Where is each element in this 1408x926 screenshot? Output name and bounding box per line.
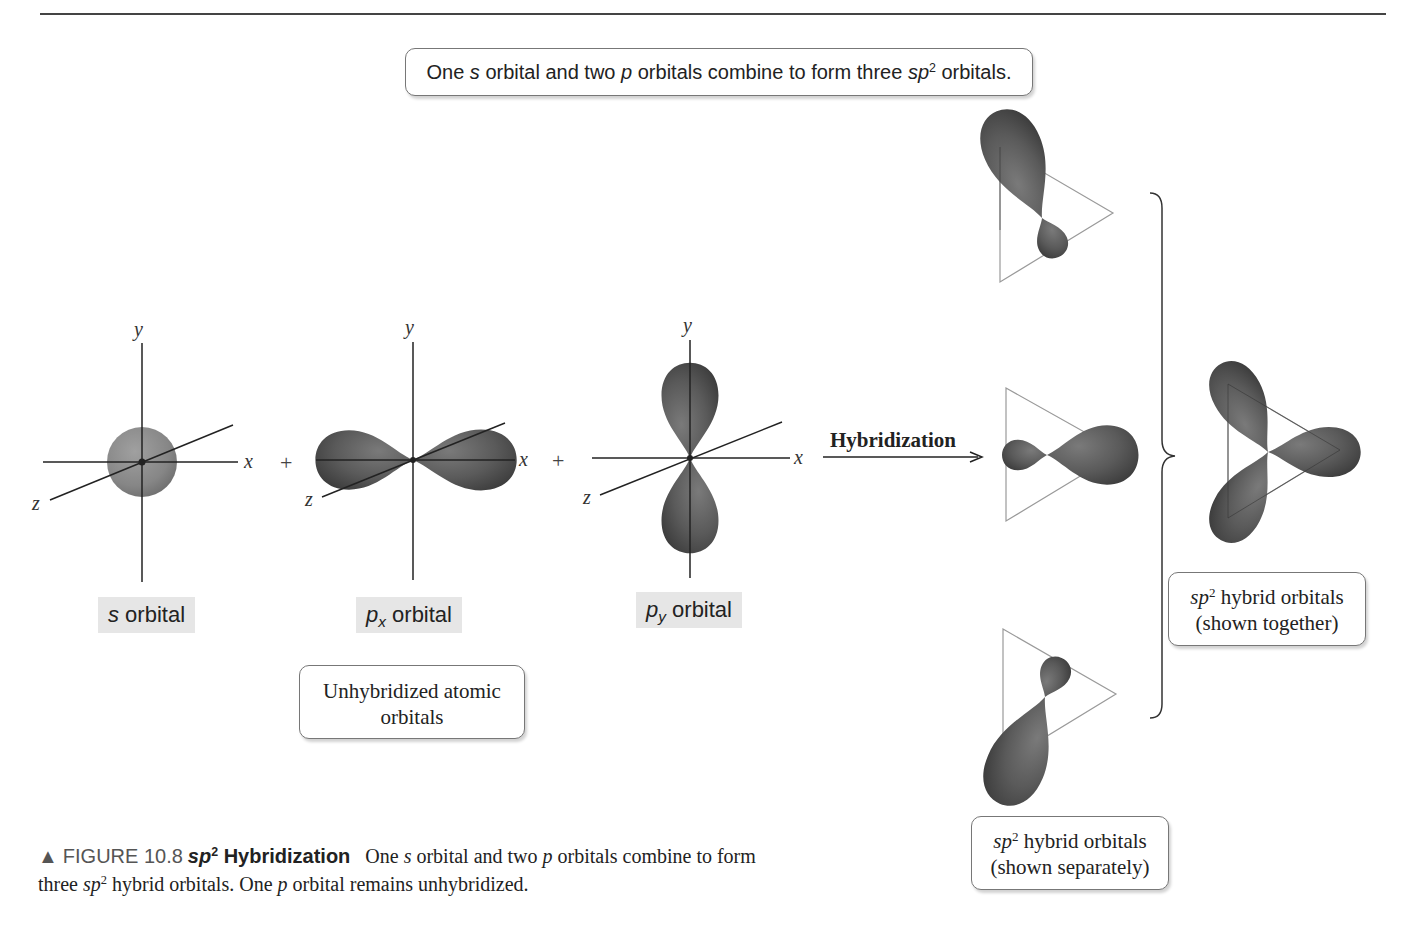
hybridization-arrow — [823, 452, 982, 462]
text: p — [278, 873, 288, 895]
line: sp2 hybrid orbitals — [972, 828, 1168, 854]
y-axis-label: y — [681, 314, 692, 337]
s-orbital-figure: x y z — [31, 318, 253, 582]
nucleus-dot — [410, 457, 416, 463]
px-orbital-figure: x y z — [304, 316, 528, 580]
figure-number: FIGURE 10.8 — [63, 845, 183, 867]
py-orbital-figure: x y z — [582, 314, 803, 578]
y-axis-label: y — [132, 318, 143, 341]
text: orbital — [119, 602, 185, 627]
text: One — [365, 845, 403, 867]
text: Hybridization — [218, 845, 350, 867]
text: p — [646, 597, 658, 622]
text: orbital — [666, 597, 732, 622]
line: sp2 hybrid orbitals — [1169, 584, 1365, 610]
text: p — [543, 845, 553, 867]
z-axis-label: z — [304, 488, 313, 510]
px-orbital-label: px orbital — [356, 597, 462, 633]
text: s — [108, 602, 119, 627]
sp2-orbital-bottom — [972, 629, 1116, 815]
orbital-diagram: x y z + x y z + x y z — [0, 0, 1408, 926]
sp2-orbital-top — [969, 100, 1113, 282]
y-axis-label: y — [403, 316, 414, 339]
text: hybrid orbitals — [1215, 585, 1343, 609]
text: orbital and two — [411, 845, 542, 867]
figure-caption: ▲ FIGURE 10.8 sp2 Hybridization One s or… — [38, 842, 798, 898]
text: orbital remains unhybridized. — [288, 873, 529, 895]
text: orbital — [386, 602, 452, 627]
triangle-marker-icon: ▲ — [38, 845, 58, 867]
unhybridized-callout: Unhybridized atomic orbitals — [299, 665, 525, 739]
x-axis-label: x — [243, 450, 253, 472]
z-axis-label: z — [31, 492, 40, 514]
text: sp — [1190, 585, 1209, 609]
sp2-orbital-middle — [1002, 388, 1139, 521]
x-axis-label: x — [793, 446, 803, 468]
sp2-orbitals-combined — [1199, 352, 1361, 552]
subscript: x — [378, 613, 386, 630]
text: Unhybridized atomic — [300, 678, 524, 704]
hybridization-label: Hybridization — [830, 428, 956, 453]
plus-sign-1: + — [280, 450, 292, 475]
sp2-separate-callout: sp2 hybrid orbitals (shown separately) — [971, 816, 1169, 890]
text: sp — [188, 845, 211, 867]
text: sp — [83, 873, 101, 895]
plus-sign-2: + — [552, 448, 564, 473]
nucleus-dot — [139, 459, 146, 466]
z-axis-label: z — [582, 486, 591, 508]
text: hybrid orbitals — [1018, 829, 1146, 853]
text: orbitals — [300, 704, 524, 730]
text: sp — [993, 829, 1012, 853]
subscript: y — [658, 608, 666, 625]
sp2-together-callout: sp2 hybrid orbitals (shown together) — [1168, 572, 1366, 646]
s-orbital-label: s orbital — [98, 597, 195, 633]
text: hybrid orbitals. One — [107, 873, 278, 895]
text: (shown together) — [1169, 610, 1365, 636]
figure-title: sp2 Hybridization — [188, 845, 350, 867]
py-orbital-label: py orbital — [636, 592, 742, 628]
text: (shown separately) — [972, 854, 1168, 880]
nucleus-dot — [687, 455, 693, 461]
text: p — [366, 602, 378, 627]
x-axis-label: x — [518, 448, 528, 470]
